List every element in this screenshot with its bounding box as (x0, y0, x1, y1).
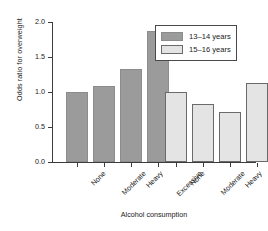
y-tick-label-4: 2.0 (35, 17, 45, 26)
bar-15-16-moderate (192, 104, 214, 162)
y-tick-1: 0.5 (48, 127, 52, 128)
x-tick-7 (257, 163, 258, 167)
x-tick-label-6: Heavy (243, 169, 264, 190)
legend-swatch-15-16 (161, 45, 183, 54)
bar-15-16-none (165, 92, 187, 162)
x-tick-5 (203, 163, 204, 167)
legend-label-15-16: 15–16 years (189, 45, 231, 54)
bar-chart-figure: Odds ratio for overweight 0.0 0.5 1.0 1.… (0, 0, 268, 231)
legend-swatch-13-14 (161, 32, 183, 41)
x-tick-1 (104, 163, 105, 167)
bar-15-16-heavy (219, 112, 241, 162)
x-tick-4 (176, 163, 177, 167)
y-tick-label-3: 1.5 (35, 52, 45, 61)
x-tick-2 (131, 163, 132, 167)
y-axis-title: Odds ratio for overweight (15, 0, 24, 125)
y-axis-line (52, 22, 53, 162)
x-tick-0 (77, 163, 78, 167)
y-tick-3: 1.5 (48, 57, 52, 58)
bar-13-14-moderate (93, 86, 115, 162)
x-tick-label-4: None (188, 169, 207, 188)
y-tick-label-1: 0.5 (35, 122, 45, 131)
bar-13-14-heavy (120, 69, 142, 162)
x-tick-label-2: Heavy (144, 169, 165, 190)
x-tick-label-0: None (89, 169, 108, 188)
chart-legend: 13–14 years 15–16 years (155, 25, 237, 61)
legend-entry-15-16: 15–16 years (161, 43, 231, 56)
y-tick-4: 2.0 (48, 22, 52, 23)
bar-13-14-none (66, 92, 88, 162)
x-tick-3 (158, 163, 159, 167)
bar-15-16-excessive (246, 83, 268, 162)
y-tick-0: 0.0 (48, 162, 52, 163)
legend-label-13-14: 13–14 years (189, 32, 231, 41)
x-axis-title: Alcohol consumption (52, 210, 256, 219)
y-tick-2: 1.0 (48, 92, 52, 93)
x-tick-6 (230, 163, 231, 167)
y-tick-label-0: 0.0 (35, 157, 45, 166)
x-axis-line (52, 162, 256, 163)
legend-entry-13-14: 13–14 years (161, 30, 231, 43)
y-tick-label-2: 1.0 (35, 87, 45, 96)
